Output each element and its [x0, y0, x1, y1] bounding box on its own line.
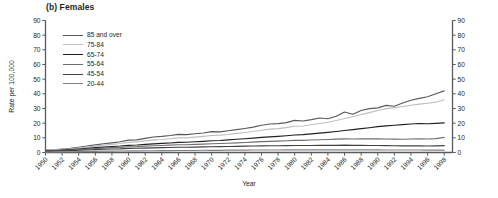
- svg-text:1994: 1994: [399, 156, 415, 172]
- svg-text:20: 20: [458, 120, 466, 127]
- svg-text:1978: 1978: [266, 156, 282, 172]
- data-lines: [46, 91, 445, 152]
- svg-text:0: 0: [458, 149, 462, 156]
- svg-text:1954: 1954: [67, 156, 83, 172]
- y-axis-title: Rate per 100,000: [8, 60, 16, 113]
- svg-text:1996: 1996: [416, 156, 432, 172]
- svg-text:60: 60: [458, 61, 466, 68]
- chart-figure: (b) Females 85 and over 75-84 65-74 55-6…: [0, 0, 498, 198]
- svg-text:1980: 1980: [283, 156, 299, 172]
- series-line-5: [46, 150, 445, 152]
- svg-text:1982: 1982: [299, 156, 315, 172]
- svg-text:1966: 1966: [166, 156, 182, 172]
- svg-text:1990: 1990: [366, 156, 382, 172]
- svg-text:40: 40: [33, 90, 41, 97]
- svg-text:30: 30: [33, 105, 41, 112]
- svg-text:50: 50: [458, 76, 466, 83]
- svg-text:30: 30: [458, 105, 466, 112]
- svg-text:90: 90: [33, 17, 41, 24]
- right-axis: 0102030405060708090: [453, 17, 466, 156]
- svg-text:1986: 1986: [333, 156, 349, 172]
- svg-text:1968: 1968: [183, 156, 199, 172]
- x-axis: 1950195219541956195819601962196419661968…: [33, 153, 452, 172]
- svg-text:1984: 1984: [316, 156, 332, 172]
- svg-text:80: 80: [458, 32, 466, 39]
- svg-text:1972: 1972: [216, 156, 232, 172]
- svg-text:1960: 1960: [117, 156, 133, 172]
- series-line-0: [46, 91, 445, 150]
- svg-text:70: 70: [33, 46, 41, 53]
- svg-text:1974: 1974: [233, 156, 249, 172]
- svg-text:1992: 1992: [382, 156, 398, 172]
- svg-text:10: 10: [33, 134, 41, 141]
- svg-text:0: 0: [37, 149, 41, 156]
- svg-text:1956: 1956: [83, 156, 99, 172]
- x-axis-title: Year: [242, 180, 256, 187]
- svg-text:1964: 1964: [150, 156, 166, 172]
- svg-text:1962: 1962: [133, 156, 149, 172]
- svg-text:20: 20: [33, 120, 41, 127]
- svg-text:1998: 1998: [432, 156, 448, 172]
- left-axis: 0102030405060708090: [33, 17, 45, 156]
- svg-text:10: 10: [458, 134, 466, 141]
- svg-text:1952: 1952: [50, 156, 66, 172]
- svg-text:60: 60: [33, 61, 41, 68]
- svg-text:70: 70: [458, 46, 466, 53]
- svg-text:1958: 1958: [100, 156, 116, 172]
- svg-text:50: 50: [33, 76, 41, 83]
- svg-text:1988: 1988: [349, 156, 365, 172]
- plot-area: 0102030405060708090 0102030405060708090 …: [0, 0, 498, 198]
- svg-text:40: 40: [458, 90, 466, 97]
- svg-text:80: 80: [33, 32, 41, 39]
- svg-text:1976: 1976: [249, 156, 265, 172]
- svg-text:1970: 1970: [200, 156, 216, 172]
- svg-text:1950: 1950: [33, 156, 49, 172]
- svg-text:90: 90: [458, 17, 466, 24]
